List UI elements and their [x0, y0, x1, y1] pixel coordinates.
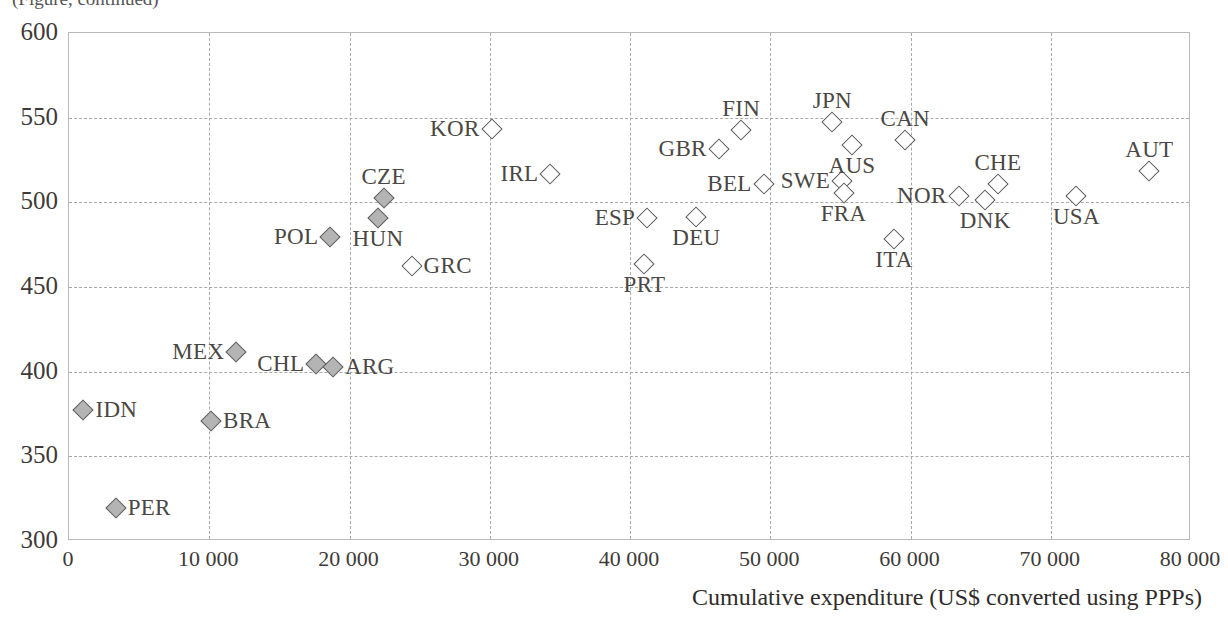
x-tick-10000: 10 000	[178, 546, 239, 572]
point-label-irl: IRL	[501, 161, 539, 187]
point-label-per: PER	[128, 495, 171, 521]
y-tick-550: 550	[0, 103, 58, 131]
point-label-prt: PRT	[624, 272, 666, 298]
point-label-cze: CZE	[361, 164, 405, 190]
gridline-vertical	[209, 33, 210, 539]
gridline-horizontal	[69, 372, 1189, 373]
point-label-can: CAN	[881, 106, 930, 132]
point-label-aut: AUT	[1125, 137, 1173, 163]
gridline-vertical	[490, 33, 491, 539]
gridline-vertical	[1051, 33, 1052, 539]
point-label-ita: ITA	[875, 247, 912, 273]
gridline-horizontal	[69, 118, 1189, 119]
point-label-nor: NOR	[897, 183, 946, 209]
point-label-jpn: JPN	[813, 88, 852, 114]
x-tick-30000: 30 000	[459, 546, 520, 572]
x-tick-40000: 40 000	[599, 546, 660, 572]
cropped-caption-text: (Figure, continued)	[12, 0, 159, 10]
x-tick-80000: 80 000	[1160, 546, 1221, 572]
x-tick-20000: 20 000	[318, 546, 379, 572]
y-tick-450: 450	[0, 272, 58, 300]
point-label-gbr: GBR	[659, 136, 707, 162]
gridline-vertical	[350, 33, 351, 539]
point-label-fin: FIN	[722, 96, 760, 122]
point-label-pol: POL	[274, 224, 318, 250]
gridline-vertical	[770, 33, 771, 539]
point-label-arg: ARG	[345, 354, 394, 380]
point-label-mex: MEX	[172, 339, 224, 365]
y-tick-600: 600	[0, 18, 58, 46]
point-label-idn: IDN	[95, 397, 137, 423]
x-axis-title: Cumulative expenditure (US$ converted us…	[692, 584, 1202, 611]
point-label-bel: BEL	[707, 171, 751, 197]
point-label-dnk: DNK	[960, 208, 1011, 234]
point-label-esp: ESP	[595, 205, 636, 231]
figure-root: (Figure, continued) 30035040045050055060…	[0, 0, 1228, 623]
point-label-deu: DEU	[672, 225, 720, 251]
point-label-usa: USA	[1053, 204, 1100, 230]
point-label-kor: KOR	[430, 116, 479, 142]
point-label-fra: FRA	[821, 201, 867, 227]
point-label-aus: AUS	[829, 153, 876, 179]
y-tick-350: 350	[0, 441, 58, 469]
gridline-horizontal	[69, 202, 1189, 203]
x-tick-60000: 60 000	[879, 546, 940, 572]
gridline-horizontal	[69, 456, 1189, 457]
y-tick-300: 300	[0, 526, 58, 554]
x-tick-70000: 70 000	[1020, 546, 1081, 572]
x-tick-50000: 50 000	[739, 546, 800, 572]
cropped-caption-strip: (Figure, continued)	[0, 0, 1228, 14]
point-label-swe: SWE	[781, 168, 830, 194]
point-label-che: CHE	[974, 150, 1021, 176]
point-label-hun: HUN	[353, 226, 404, 252]
y-tick-400: 400	[0, 357, 58, 385]
x-tick-0: 0	[63, 546, 74, 572]
y-tick-500: 500	[0, 187, 58, 215]
point-label-bra: BRA	[223, 408, 271, 434]
point-label-chl: CHL	[257, 351, 304, 377]
point-label-grc: GRC	[424, 253, 472, 279]
